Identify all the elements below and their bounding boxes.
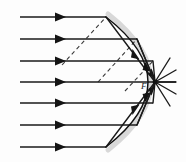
ray-diagram-canvas: F <box>0 0 186 162</box>
ray-diagram-figure: F <box>0 0 186 162</box>
focus-point <box>153 80 158 85</box>
focus-label: F <box>140 81 147 91</box>
